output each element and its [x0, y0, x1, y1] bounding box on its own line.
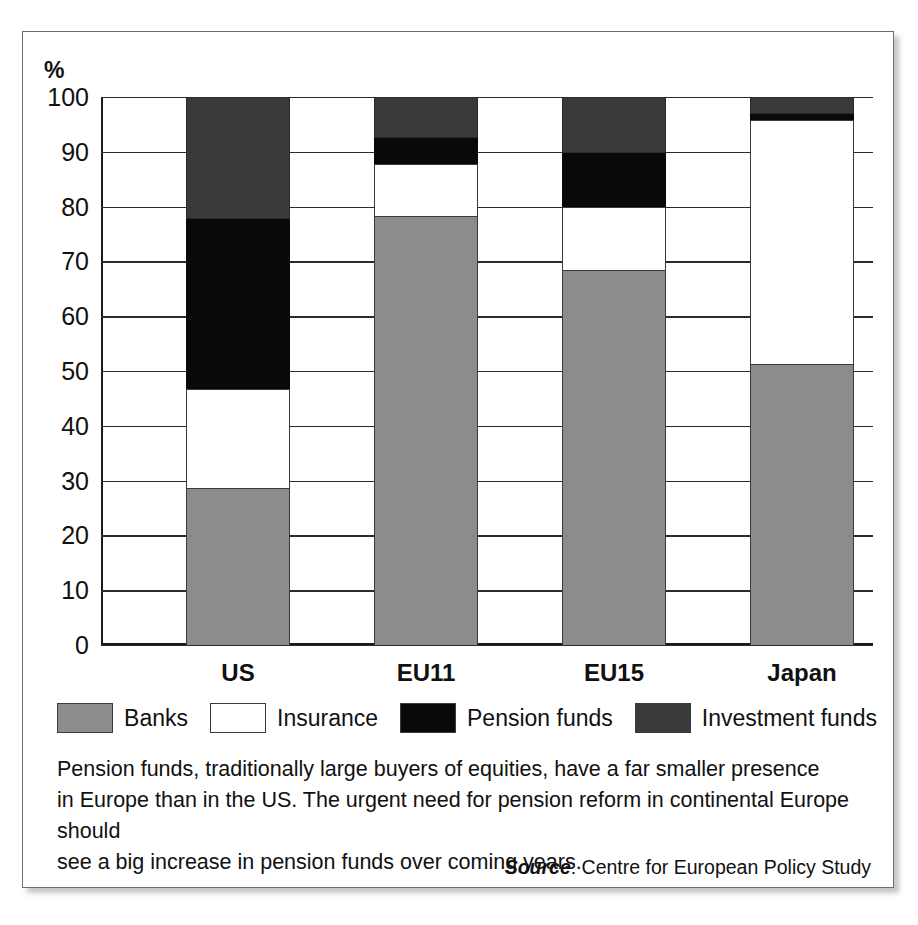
bar-segment-eu11-banks[interactable] — [374, 216, 478, 645]
bar-segment-us-pension-funds[interactable] — [186, 219, 290, 388]
bar-segment-eu11-insurance[interactable] — [374, 164, 478, 217]
y-tick-label-10: 10 — [61, 578, 89, 603]
bar-segment-eu15-investment-funds[interactable] — [562, 97, 666, 153]
bar-segment-japan-investment-funds[interactable] — [750, 97, 854, 114]
y-tick-label-60: 60 — [61, 304, 89, 329]
bar-segment-eu15-banks[interactable] — [562, 270, 666, 645]
legend-item-insurance[interactable]: Insurance — [210, 703, 378, 733]
bar-japan[interactable]: Japan — [750, 97, 854, 645]
legend-label-investment-funds: Investment funds — [702, 705, 877, 732]
bar-eu11[interactable]: EU11 — [374, 97, 478, 645]
bar-segment-us-banks[interactable] — [186, 488, 290, 645]
bar-segment-us-investment-funds[interactable] — [186, 97, 290, 219]
legend-swatch-banks — [57, 703, 113, 733]
bar-eu15[interactable]: EU15 — [562, 97, 666, 645]
bar-segment-japan-banks[interactable] — [750, 364, 854, 645]
caption-line-2: in Europe than in the US. The urgent nee… — [57, 785, 872, 847]
y-tick-label-80: 80 — [61, 194, 89, 219]
caption-line-1: Pension funds, traditionally large buyer… — [57, 754, 872, 785]
bar-segment-japan-pension-funds[interactable] — [750, 114, 854, 120]
gridline-0 — [101, 645, 873, 646]
legend-swatch-insurance — [210, 703, 266, 733]
y-tick-label-20: 20 — [61, 523, 89, 548]
chart-legend: BanksInsurancePension fundsInvestment fu… — [67, 698, 867, 738]
y-tick-label-40: 40 — [61, 413, 89, 438]
legend-label-banks: Banks — [124, 705, 188, 732]
y-tick-label-90: 90 — [61, 139, 89, 164]
source-label: Source — [505, 856, 571, 878]
legend-swatch-pension-funds — [400, 703, 456, 733]
bar-segment-us-insurance[interactable] — [186, 389, 290, 489]
bar-us[interactable]: US — [186, 97, 290, 645]
y-axis-unit-label: % — [44, 57, 64, 84]
legend-swatch-investment-funds — [635, 703, 691, 733]
bar-segment-japan-insurance[interactable] — [750, 120, 854, 364]
legend-item-banks[interactable]: Banks — [57, 703, 188, 733]
y-tick-label-70: 70 — [61, 249, 89, 274]
legend-item-investment-funds[interactable]: Investment funds — [635, 703, 877, 733]
x-tick-label-eu15: EU15 — [562, 659, 666, 687]
figure-panel: % 1009080706050403020100 USEU11EU15Japan… — [22, 31, 894, 888]
source-value: Centre for European Policy Study — [582, 856, 871, 878]
source-separator: : — [571, 856, 582, 878]
source-line: Source: Centre for European Policy Study — [505, 856, 871, 879]
x-tick-label-japan: Japan — [750, 659, 854, 687]
legend-label-pension-funds: Pension funds — [467, 705, 613, 732]
plot-area: 1009080706050403020100 USEU11EU15Japan — [101, 97, 873, 645]
x-tick-label-us: US — [186, 659, 290, 687]
y-tick-label-100: 100 — [47, 85, 89, 110]
y-tick-label-30: 30 — [61, 468, 89, 493]
bar-segment-eu11-pension-funds[interactable] — [374, 138, 478, 164]
y-tick-label-50: 50 — [61, 359, 89, 384]
bar-segment-eu15-insurance[interactable] — [562, 207, 666, 270]
legend-item-pension-funds[interactable]: Pension funds — [400, 703, 613, 733]
bar-segment-eu15-pension-funds[interactable] — [562, 153, 666, 207]
bar-segment-eu11-investment-funds[interactable] — [374, 97, 478, 138]
y-tick-label-0: 0 — [75, 633, 89, 658]
legend-label-insurance: Insurance — [277, 705, 378, 732]
x-tick-label-eu11: EU11 — [374, 659, 478, 687]
